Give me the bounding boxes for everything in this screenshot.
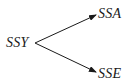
node-label-bottom: SSE: [98, 67, 121, 81]
edge-ssy-to-ssa: [35, 15, 96, 43]
node-label-top: SSA: [98, 7, 121, 21]
arrow-down-right-icon: [35, 43, 96, 72]
arrow-up-right-icon: [35, 15, 96, 43]
node-label-source: SSY: [6, 36, 29, 50]
branching-diagram: SSY SSA SSE: [0, 0, 127, 82]
edge-ssy-to-sse: [35, 43, 96, 72]
